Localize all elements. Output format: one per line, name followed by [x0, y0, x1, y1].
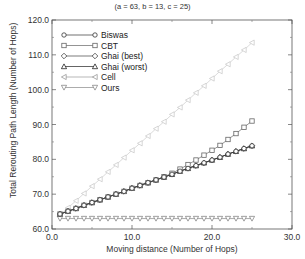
legend: BiswasCBTGhai (best)Ghai (worst)CellOurs	[61, 30, 147, 93]
x-tick-label: 30.0	[284, 232, 301, 242]
legend-label: Ghai (best)	[101, 51, 143, 61]
plot-frame	[52, 20, 292, 229]
y-tick-label: 90.0	[32, 120, 49, 130]
legend-item: Ours	[61, 83, 119, 93]
legend-label: CBT	[101, 41, 118, 51]
series-ours	[57, 216, 254, 221]
line-chart: 60.070.080.090.0100.0110.0120.00.010.020…	[0, 0, 305, 259]
legend-item: Cell	[61, 72, 115, 82]
y-tick-label: 80.0	[32, 154, 49, 164]
x-tick-label: 0.0	[46, 232, 58, 242]
x-tick-label: 10.0	[124, 232, 141, 242]
y-tick-label: 120.0	[28, 15, 50, 25]
x-tick-label: 20.0	[204, 232, 221, 242]
legend-label: Biswas	[101, 30, 128, 40]
y-tick-label: 110.0	[28, 50, 49, 60]
legend-item: CBT	[62, 41, 118, 51]
legend-item: Ghai (best)	[61, 51, 143, 61]
y-tick-label: 70.0	[32, 189, 49, 199]
legend-item: Biswas	[62, 30, 128, 40]
legend-label: Ghai (worst)	[101, 62, 147, 72]
legend-label: Ours	[101, 83, 119, 93]
legend-item: Ghai (worst)	[61, 62, 147, 72]
y-tick-label: 100.0	[28, 85, 50, 95]
legend-label: Cell	[101, 72, 116, 82]
series-cbt	[58, 119, 254, 216]
